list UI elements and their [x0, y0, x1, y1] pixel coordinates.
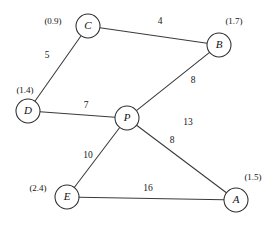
node-label-a: A: [232, 193, 240, 205]
node-label-b: B: [216, 38, 223, 50]
graph-node-p[interactable]: P: [115, 106, 139, 130]
graph-edge-p-e: [74, 128, 119, 188]
graph-edge-e-a: [79, 197, 224, 200]
edge-weight-e-a: 16: [143, 183, 153, 193]
edge-weight-d-p: 7: [84, 100, 89, 110]
floating-labels-group: 13: [183, 117, 193, 127]
node-label-e: E: [63, 190, 71, 202]
edge-weight-p-e: 10: [83, 150, 93, 160]
node-heuristic-c: (0.9): [44, 16, 61, 26]
graph-edge-d-p: [40, 112, 115, 117]
graph-edge-p-b: [136, 52, 209, 110]
graph-node-c[interactable]: C: [76, 14, 100, 38]
node-heuristic-a: (1.5): [244, 172, 261, 182]
graph-node-e[interactable]: E: [55, 185, 79, 209]
node-heuristic-d: (1.4): [16, 85, 33, 95]
edge-weight-c-d: 5: [45, 50, 50, 60]
graph-node-b[interactable]: B: [207, 33, 231, 57]
edge-weight-c-b: 4: [158, 16, 163, 26]
edge-weight-p-b: 8: [191, 75, 196, 85]
node-label-c: C: [84, 19, 92, 31]
graph-diagram: 457881016 13 CBDPEA (0.9)(1.7)(1.4)(2.4)…: [0, 0, 278, 226]
graph-node-a[interactable]: A: [224, 188, 248, 212]
graph-node-d[interactable]: D: [16, 99, 40, 123]
edge-weight-p-a: 8: [170, 135, 175, 145]
node-label-d: D: [23, 104, 32, 116]
node-label-p: P: [123, 111, 131, 123]
node-heuristic-b: (1.7): [225, 16, 242, 26]
edge-weights-group: 457881016: [45, 16, 196, 193]
graph-edge-c-b: [100, 28, 207, 44]
graph-canvas: 457881016 13 CBDPEA (0.9)(1.7)(1.4)(2.4)…: [0, 0, 278, 226]
floating-label-thirteen: 13: [183, 117, 193, 127]
graph-edge-c-d: [35, 36, 81, 101]
node-heuristic-e: (2.4): [29, 183, 46, 193]
